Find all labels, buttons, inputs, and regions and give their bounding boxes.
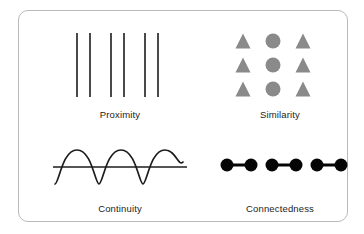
triangle-shape	[296, 34, 311, 49]
triangle-shape	[236, 34, 251, 49]
triangle-shape	[296, 58, 311, 73]
circle-shape	[266, 58, 281, 73]
dot-shape	[245, 159, 258, 172]
figure-card: Proximity	[18, 10, 348, 222]
circle-shape	[266, 82, 281, 97]
dot-shape	[266, 159, 279, 172]
triangle-shape	[236, 82, 251, 97]
dot-shape	[290, 159, 303, 172]
shape-grid-icon	[205, 27, 355, 107]
triangle-shape	[296, 82, 311, 97]
panel-label-connectedness: Connectedness	[205, 203, 355, 214]
panel-label-proximity: Proximity	[45, 109, 195, 120]
gestalt-principles-figure: Proximity	[0, 0, 364, 234]
panel-similarity: Similarity	[205, 27, 355, 127]
panel-label-similarity: Similarity	[205, 109, 355, 120]
wave-line-icon	[45, 137, 195, 199]
panel-connectedness: Connectedness	[205, 137, 355, 229]
panel-continuity: Continuity	[45, 137, 195, 229]
linked-dots-icon	[205, 137, 355, 199]
panel-proximity: Proximity	[45, 27, 195, 127]
vertical-lines-icon	[45, 27, 195, 107]
panel-label-continuity: Continuity	[45, 203, 195, 214]
circle-shape	[266, 34, 281, 49]
dot-shape	[311, 159, 324, 172]
triangle-shape	[236, 58, 251, 73]
dot-shape	[221, 159, 234, 172]
dot-shape	[335, 159, 348, 172]
